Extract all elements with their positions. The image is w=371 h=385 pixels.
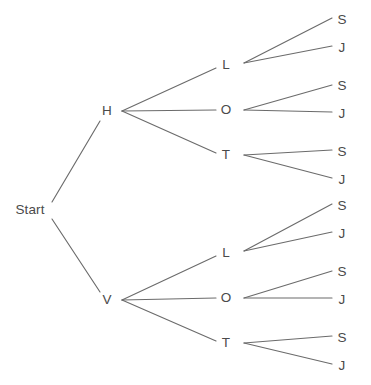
tree-edge-h-o-to-h-o-s [244, 85, 332, 110]
tree-node-v-o-s: S [337, 265, 346, 279]
tree-edge-h-t-to-h-t-s [244, 150, 332, 155]
tree-edge-v-to-v-l [122, 256, 216, 300]
tree-node-v-l-s: S [337, 199, 346, 213]
tree-diagram: StartHVLOTLOTSJSJSJSJSJSJ [0, 0, 371, 385]
tree-node-v-l: L [222, 246, 230, 260]
tree-edge-start-to-h [52, 121, 100, 202]
tree-edge-h-to-h-t [122, 111, 216, 153]
tree-node-v-o-j: J [339, 293, 346, 307]
tree-node-h-l: L [222, 58, 230, 72]
tree-node-v-o: O [221, 291, 232, 305]
tree-edge-h-l-to-h-l-s [244, 18, 332, 63]
tree-edge-v-l-to-v-l-s [244, 204, 332, 251]
tree-edge-v-to-v-t [122, 300, 216, 341]
tree-node-v-t: T [222, 336, 230, 350]
tree-node-v: V [102, 293, 111, 307]
tree-node-h-o: O [221, 103, 232, 117]
tree-node-h-t-s: S [337, 145, 346, 159]
tree-node-h-o-s: S [337, 79, 346, 93]
tree-node-v-t-j: J [339, 359, 346, 373]
tree-edge-h-o-to-h-o-j [244, 110, 332, 112]
tree-edge-v-to-v-o [122, 298, 216, 300]
tree-node-h-l-j: J [339, 41, 346, 55]
edge-group [52, 18, 332, 364]
tree-node-start: Start [15, 203, 44, 217]
tree-edge-v-l-to-v-l-j [244, 232, 332, 251]
tree-edge-h-to-h-o [122, 110, 216, 111]
tree-edges-layer [0, 0, 371, 385]
tree-edge-start-to-v [52, 219, 100, 292]
tree-edge-v-o-to-v-o-s [244, 271, 332, 298]
tree-node-h-o-j: J [339, 107, 346, 121]
tree-edge-h-to-h-l [122, 68, 216, 111]
tree-node-v-t-s: S [337, 331, 346, 345]
tree-node-h: H [102, 104, 112, 118]
tree-node-v-l-j: J [339, 227, 346, 241]
tree-node-h-t: T [222, 148, 230, 162]
tree-node-h-t-j: J [339, 173, 346, 187]
tree-edge-v-t-to-v-t-s [244, 336, 332, 343]
tree-edge-h-l-to-h-l-j [244, 46, 332, 63]
tree-edge-v-t-to-v-t-j [244, 343, 332, 364]
tree-node-h-l-s: S [337, 13, 346, 27]
tree-edge-h-t-to-h-t-j [244, 155, 332, 178]
